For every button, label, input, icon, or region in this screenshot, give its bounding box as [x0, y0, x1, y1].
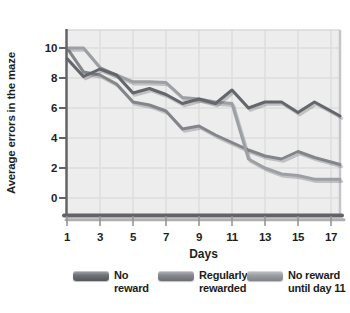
x-tick-label-3: 3: [97, 231, 103, 243]
legend-item-no-reward-until-day-11: No reward until day 11: [247, 269, 346, 294]
y-tick-label-0: 0: [51, 192, 57, 204]
legend-swatch-no-reward-until-day-11: [247, 271, 283, 281]
legend: No reward Regularly rewarded No reward u…: [73, 269, 346, 294]
x-tick-label-13: 13: [259, 231, 271, 243]
legend-label-no-reward-until-day-11: No reward until day 11: [288, 269, 346, 294]
legend-label-no-reward: No reward: [114, 269, 149, 294]
legend-swatch-no-reward: [73, 271, 109, 281]
legend-swatch-regularly-rewarded: [158, 271, 194, 281]
x-tick-label-1: 1: [64, 231, 71, 243]
y-tick-label-2: 2: [51, 162, 57, 174]
x-tick-label-15: 15: [292, 231, 305, 243]
x-tick-label-7: 7: [163, 231, 169, 243]
legend-label-regularly-rewarded: Regularly rewarded: [199, 269, 247, 294]
legend-item-regularly-rewarded: Regularly rewarded: [158, 269, 247, 294]
x-axis-title: Days: [67, 247, 340, 261]
maze-errors-chart-card: 13579111315170246810 Average errors in t…: [0, 0, 350, 313]
y-tick-label-4: 4: [51, 132, 58, 144]
y-tick-label-6: 6: [51, 102, 57, 114]
legend-item-no-reward: No reward: [73, 269, 158, 294]
y-tick-label-8: 8: [51, 72, 58, 84]
x-tick-label-11: 11: [226, 231, 238, 243]
line-chart: 13579111315170246810: [0, 0, 350, 313]
plot-area: [67, 30, 340, 215]
x-tick-label-5: 5: [130, 231, 137, 243]
y-axis-title: Average errors in the maze: [5, 43, 21, 203]
x-tick-label-9: 9: [196, 231, 202, 243]
y-tick-label-10: 10: [45, 42, 57, 54]
x-tick-label-17: 17: [325, 231, 337, 243]
